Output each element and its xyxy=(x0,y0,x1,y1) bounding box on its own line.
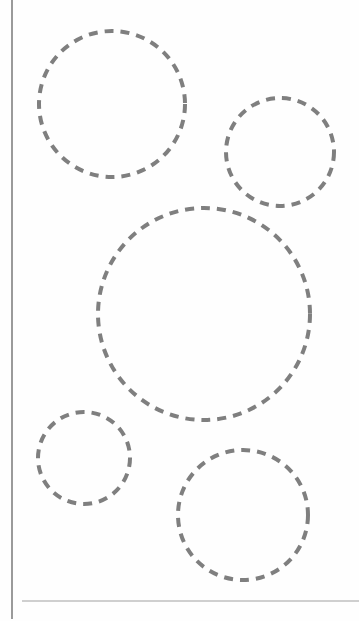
dashed-circle xyxy=(178,450,308,580)
dashed-circles-group xyxy=(38,31,334,580)
dashed-circle xyxy=(226,98,334,206)
bottom-line xyxy=(22,600,359,602)
worksheet-page xyxy=(0,0,359,621)
dashed-circle xyxy=(98,208,310,420)
dashed-circle xyxy=(38,412,130,504)
dashed-circles-canvas xyxy=(0,0,359,621)
dashed-circle xyxy=(39,31,185,177)
